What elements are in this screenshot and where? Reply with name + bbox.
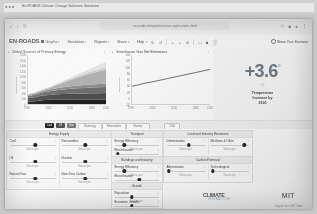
star-icon[interactable]: ☆: [280, 24, 284, 29]
slider-energy-efficiency[interactable]: Energy EfficiencyiStatus quo: [113, 165, 160, 173]
slider-track[interactable]: [115, 154, 159, 155]
chart-menu-icon[interactable]: ⋮: [103, 50, 106, 54]
slider-handle[interactable]: [167, 169, 170, 172]
slider-new-zero-carbon[interactable]: New Zero CarboniStatus quo: [60, 172, 109, 188]
info-icon[interactable]: i: [248, 165, 249, 169]
slider-track[interactable]: [115, 145, 159, 146]
menu-graphs[interactable]: Graphs▾: [41, 40, 60, 44]
tab-strip-marker[interactable]: [89, 23, 91, 28]
slider-renewables[interactable]: RenewablesiStatus quo: [60, 139, 109, 155]
slider-oil[interactable]: OiliStatus quo: [8, 156, 57, 172]
slider-electrification[interactable]: ElectrificationiStatus quo: [113, 174, 160, 182]
grid-icon: [41, 40, 44, 43]
slider-nuclear[interactable]: NucleariStatus quo: [60, 156, 109, 172]
legend-item-coal[interactable]: Coal: [45, 123, 54, 128]
slider-handle[interactable]: [34, 160, 37, 163]
info-icon[interactable]: i: [158, 139, 159, 143]
kebab-menu-icon[interactable]: ⋮: [302, 24, 307, 29]
chevron-right-icon[interactable]: ▸: [112, 50, 114, 54]
menu-share[interactable]: Share▾: [117, 40, 130, 44]
menu-simulation[interactable]: Simulation▾: [67, 40, 87, 44]
compare-icon[interactable]: □: [199, 40, 202, 45]
y-tick-label: 1400: [20, 65, 26, 68]
slider-natural-gas[interactable]: Natural GasiStatus quo: [8, 172, 57, 188]
reload-icon[interactable]: ↻: [23, 24, 27, 29]
reset-icon[interactable]: ⊘: [186, 40, 189, 45]
slider-value: Status quo: [8, 165, 57, 168]
slider-handle[interactable]: [138, 178, 141, 181]
chart-menu-icon[interactable]: ⋮: [207, 50, 210, 54]
info-icon[interactable]: i: [204, 165, 205, 169]
address-bar[interactable]: en-roads.climateinteractive.org/scenario…: [100, 22, 230, 30]
forward-arrow-icon[interactable]: ›: [17, 24, 19, 29]
zoom-out-icon[interactable]: +: [172, 40, 175, 45]
menu-reports[interactable]: Reports▾: [94, 40, 110, 44]
slider-handle[interactable]: [116, 152, 119, 155]
info-icon[interactable]: i: [55, 156, 56, 160]
slider-handle[interactable]: [130, 204, 133, 207]
slider-methane-other[interactable]: Methane & OtheriStatus quo: [209, 139, 250, 155]
slider-handle[interactable]: [211, 169, 214, 172]
undo-icon[interactable]: ↻: [151, 40, 154, 45]
info-icon[interactable]: i: [55, 139, 56, 143]
slider-electrification[interactable]: ElectrificationiStatus quo: [113, 148, 160, 156]
info-icon[interactable]: i: [158, 148, 159, 152]
slider-handle[interactable]: [84, 177, 87, 180]
slider-handle[interactable]: [34, 177, 37, 180]
slider-handle[interactable]: [187, 143, 190, 146]
slider-handle[interactable]: [123, 143, 126, 146]
slider-track[interactable]: [10, 162, 56, 163]
slider-handle[interactable]: [84, 143, 87, 146]
slider-handle[interactable]: [123, 169, 126, 172]
redo-icon[interactable]: ↺: [159, 40, 162, 45]
info-icon[interactable]: i: [55, 172, 56, 176]
slider-handle[interactable]: [34, 143, 37, 146]
slider-value: Status quo: [209, 148, 250, 151]
info-icon[interactable]: i: [204, 139, 205, 143]
info-icon[interactable]: i: [107, 172, 108, 176]
info-icon[interactable]: i: [107, 139, 108, 143]
slider-handle[interactable]: [243, 143, 246, 146]
slider-track[interactable]: [167, 145, 205, 146]
legend-item-gas[interactable]: Gas: [67, 123, 76, 128]
slider-population[interactable]: PopulationiStatus quo: [113, 191, 160, 199]
info-icon[interactable]: i: [248, 139, 249, 143]
temperature-caption-l1: Temperature: [252, 91, 274, 95]
slider-track[interactable]: [115, 180, 159, 181]
slider-track[interactable]: [10, 145, 56, 146]
slider-afforestation[interactable]: AfforestationiStatus quo: [165, 165, 206, 181]
info-icon[interactable]: i: [158, 191, 159, 195]
legend-item-oil[interactable]: Oil: [56, 123, 65, 128]
slider-coal[interactable]: CoaliStatus quo: [8, 139, 57, 155]
back-arrow-icon[interactable]: ‹: [10, 24, 12, 29]
info-icon[interactable]: i: [158, 174, 159, 178]
slider-track[interactable]: [167, 171, 205, 172]
puzzle-icon[interactable]: ■: [288, 24, 291, 29]
control-group-title: Transport: [112, 131, 162, 138]
slider-track[interactable]: [115, 171, 159, 172]
layout-icon[interactable]: ■: [206, 40, 209, 45]
zoom-in-icon[interactable]: +: [179, 40, 182, 45]
info-icon[interactable]: ⓘ: [213, 39, 217, 45]
window-controls-icon[interactable]: ●●●: [5, 4, 15, 9]
info-icon[interactable]: i: [107, 156, 108, 160]
slider-energy-efficiency[interactable]: Energy EfficiencyiStatus quo: [113, 139, 160, 147]
menu-help[interactable]: Help▾: [137, 40, 148, 44]
slider-track[interactable]: [115, 197, 159, 198]
info-icon[interactable]: i: [158, 165, 159, 169]
slider-track[interactable]: [211, 171, 249, 172]
info-icon[interactable]: i: [158, 200, 159, 204]
share-icon: [271, 39, 276, 44]
chevron-down-icon: ▾: [146, 40, 148, 44]
control-group-transport: TransportEnergy EfficiencyiStatus quoEle…: [111, 130, 163, 157]
slider-economic-growth[interactable]: Economic GrowthiStatus quo: [113, 200, 160, 208]
slider-deforestation[interactable]: DeforestationiStatus quo: [165, 139, 206, 155]
slider-track[interactable]: [115, 206, 159, 207]
slider-handle[interactable]: [130, 195, 133, 198]
chevron-right-icon[interactable]: ▸: [8, 50, 10, 54]
slider-handle[interactable]: [84, 160, 87, 163]
share-scenario-button[interactable]: Share Your Scenario: [271, 39, 308, 44]
slider-technological[interactable]: TechnologicaliStatus quo: [209, 165, 250, 181]
profile-icon[interactable]: ●: [295, 24, 298, 29]
slider-track[interactable]: [10, 178, 56, 179]
